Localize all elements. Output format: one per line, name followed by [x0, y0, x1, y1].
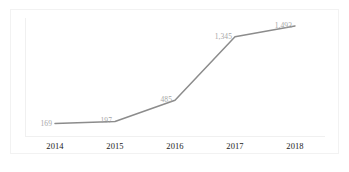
category-axis: 20142015201620172018 [25, 138, 325, 153]
category-tick-label: 2017 [205, 141, 265, 151]
data-point-label: 169 [40, 118, 55, 127]
data-point-label: 1,345 [215, 31, 235, 40]
series-line [25, 18, 325, 136]
category-tick-label: 2015 [85, 141, 145, 151]
category-tick-label: 2016 [145, 141, 205, 151]
category-tick-label: 2014 [25, 141, 85, 151]
data-point-label: 1,493 [275, 20, 295, 29]
x-axis-line [25, 136, 325, 137]
plot-area [25, 18, 325, 136]
data-point-label: 485 [160, 95, 175, 104]
category-tick-label: 2018 [265, 141, 325, 151]
data-point-label: 197 [100, 116, 115, 125]
line-chart-figure: 1691974851,3451,493 20142015201620172018 [10, 9, 339, 154]
